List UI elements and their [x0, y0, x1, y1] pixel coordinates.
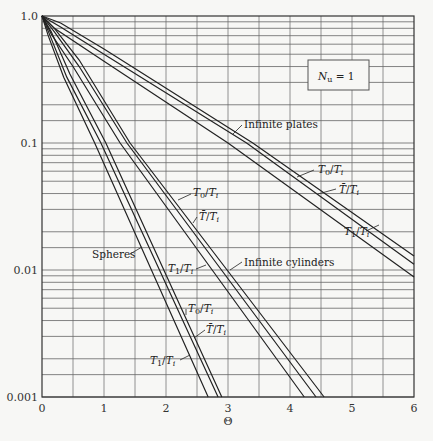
curve-label: T1/Ti — [168, 262, 194, 276]
nu-box: Nu = 1 — [308, 60, 369, 90]
curve-label: T0/Ti — [193, 186, 219, 200]
curve-label: T0/Ti — [188, 302, 214, 316]
x-tick: 1 — [101, 402, 108, 415]
y-tick: 1.0 — [21, 10, 39, 23]
x-tick: 4 — [287, 402, 294, 415]
curve-7 — [42, 16, 218, 397]
x-tick: 0 — [39, 402, 46, 415]
curve-6 — [42, 16, 222, 397]
curve-label: T1/Ti — [344, 225, 370, 239]
x-tick: 3 — [225, 402, 232, 415]
curve-label: Infinite cylinders — [244, 256, 334, 268]
curve-5 — [42, 16, 304, 397]
x-tick: 6 — [411, 402, 418, 415]
chart: 01234561.00.10.010.001 Infinite platesT0… — [0, 0, 433, 441]
curve-label: Infinite plates — [244, 118, 318, 130]
x-tick: 2 — [163, 402, 170, 415]
nu-box-label: Nu = 1 — [317, 70, 355, 84]
x-tick: 5 — [349, 402, 356, 415]
y-tick: 0.001 — [7, 391, 39, 404]
y-tick: 0.01 — [14, 264, 39, 277]
curve-label: Spheres — [92, 248, 136, 260]
curve-label: T̄/Ti — [199, 210, 220, 224]
x-axis-label: Θ — [223, 415, 232, 428]
curve-label: T̄/Ti — [339, 183, 360, 197]
curve-label: T0/Ti — [318, 163, 344, 177]
curve-label: T̄/Ti — [206, 323, 227, 337]
curve-8 — [42, 16, 208, 397]
curve-label: T1/Ti — [150, 354, 176, 368]
y-tick: 0.1 — [21, 137, 39, 150]
